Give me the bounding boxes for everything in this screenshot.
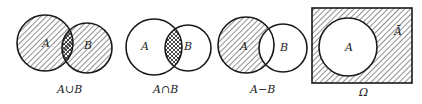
- label-b: B: [279, 41, 288, 54]
- venn-complement: A Ā Ω: [312, 8, 412, 99]
- venn-union: A B A∪B: [17, 15, 112, 96]
- label-b: B: [83, 39, 92, 52]
- set-operations-figure: A B A∪B A B A∩B A B A−B A Ā Ω: [0, 0, 422, 104]
- caption-union: A∪B: [56, 83, 82, 96]
- label-a: A: [140, 40, 149, 53]
- venn-intersection: A B A∩B: [126, 19, 211, 96]
- caption-difference: A−B: [249, 83, 275, 96]
- label-a: A: [344, 41, 353, 54]
- caption-intersection: A∩B: [152, 83, 178, 96]
- caption-universe: Ω: [358, 86, 368, 99]
- label-a: A: [41, 37, 50, 50]
- venn-difference: A B A−B: [218, 17, 307, 96]
- label-complement: Ā: [393, 25, 402, 38]
- label-b: B: [183, 40, 192, 53]
- label-a: A: [239, 40, 248, 53]
